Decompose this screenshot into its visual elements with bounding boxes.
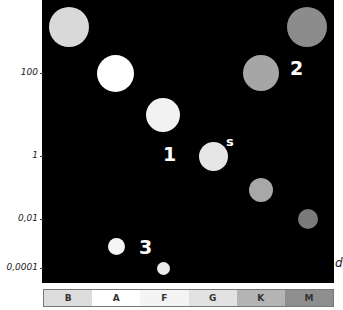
star-k-giant bbox=[243, 55, 279, 91]
y-tick bbox=[40, 219, 43, 220]
y-label-100: 100 bbox=[0, 67, 38, 77]
y-tick bbox=[40, 268, 43, 269]
spectral-class-k: K bbox=[237, 290, 285, 306]
star-b-giant bbox=[49, 7, 89, 47]
label-group-2: 2 bbox=[290, 57, 303, 79]
star-a-dwarf bbox=[108, 238, 125, 255]
star-sun bbox=[199, 142, 228, 171]
diagram-panel bbox=[42, 0, 334, 283]
x-axis-label: d bbox=[335, 256, 343, 270]
y-label-0-01: 0,01 bbox=[0, 213, 38, 223]
y-tick bbox=[40, 73, 43, 74]
star-m-main bbox=[298, 209, 318, 229]
spectral-class-bar: B A F G K M bbox=[43, 289, 334, 307]
star-a-main bbox=[97, 55, 134, 92]
star-f-dwarf bbox=[157, 262, 170, 275]
label-sun: s bbox=[226, 134, 234, 149]
label-group-3: 3 bbox=[139, 236, 152, 258]
star-m-giant bbox=[287, 7, 327, 47]
spectral-class-g: G bbox=[189, 290, 237, 306]
y-label-1: 1 bbox=[0, 150, 38, 160]
spectral-class-a: A bbox=[92, 290, 140, 306]
star-f-main bbox=[146, 98, 180, 132]
y-tick bbox=[40, 156, 43, 157]
spectral-class-b: B bbox=[44, 290, 92, 306]
spectral-class-f: F bbox=[140, 290, 188, 306]
star-k-main bbox=[249, 178, 273, 202]
spectral-class-m: M bbox=[285, 290, 333, 306]
y-label-0-0001: 0,0001 bbox=[0, 262, 38, 272]
label-group-1: 1 bbox=[163, 143, 176, 165]
